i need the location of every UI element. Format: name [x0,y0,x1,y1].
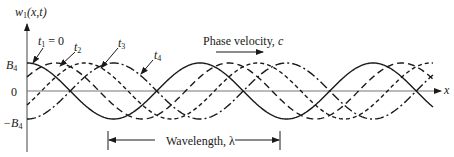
t1-label: t1 = 0 [38,35,64,49]
y-tick-neg-b4: −B4 [3,117,22,131]
wavelength-label: Wavelength, λ [166,135,235,147]
t4-pointer-arrow [141,60,153,74]
y-tick-zero: 0 [11,86,17,98]
t3-pointer-arrow [101,48,118,68]
t3-label: t3 [118,37,125,51]
traveling-wave-figure: w1(x,t) B4 0 −B4 x t1 = 0 t2 t3 t4 Phase… [0,0,454,157]
t1-pointer-arrow [33,48,43,63]
x-axis-label: x [444,84,449,96]
t2-label: t2 [74,41,81,55]
phase-velocity-label: Phase velocity, c [203,35,283,47]
t2-pointer-arrow [60,52,75,66]
t4-label: t4 [154,49,161,63]
y-tick-b4: B4 [6,59,17,73]
y-axis-label: w1(x,t) [15,6,47,20]
